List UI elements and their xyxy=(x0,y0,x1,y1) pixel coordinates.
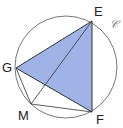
label-f: F xyxy=(96,113,104,126)
label-circle: 𝒞 xyxy=(110,19,118,30)
geometry-diagram: E G M F 𝒞 xyxy=(0,0,123,128)
label-m: M xyxy=(18,109,29,122)
label-g: G xyxy=(2,61,12,74)
triangle-efg xyxy=(16,21,92,112)
label-e: E xyxy=(94,5,103,18)
